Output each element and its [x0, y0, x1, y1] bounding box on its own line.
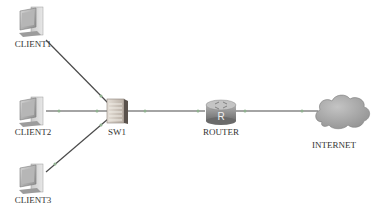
node-label-sw1: SW1 — [108, 127, 126, 137]
interface-dots — [54, 95, 304, 166]
pc-icon[interactable] — [19, 164, 43, 194]
diagram-canvas: R — [0, 0, 374, 217]
node-label-internet: INTERNET — [312, 140, 356, 150]
node-label-router: ROUTER — [203, 127, 239, 137]
pc-icon[interactable] — [19, 97, 43, 127]
link-client1-sw1[interactable] — [46, 40, 108, 103]
network-diagram: R CLIENT1 CLIENT2 CLIENT3 SW1 ROUTER INT… — [0, 0, 374, 217]
pc-icon[interactable] — [19, 7, 43, 37]
cloud-icon[interactable] — [316, 95, 370, 129]
switch-icon[interactable] — [107, 99, 128, 124]
node-label-client1: CLIENT1 — [15, 39, 52, 49]
node-label-client2: CLIENT2 — [15, 127, 52, 137]
router-glyph: R — [217, 111, 224, 122]
links — [46, 40, 318, 172]
router-icon[interactable]: R — [206, 100, 236, 125]
node-label-client3: CLIENT3 — [15, 195, 52, 205]
